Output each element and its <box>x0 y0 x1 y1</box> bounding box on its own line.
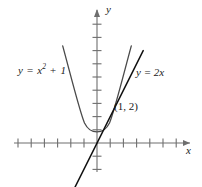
curve-equation-label: y = x2 + 1 <box>18 63 66 76</box>
curve-label-eq: = <box>23 64 37 76</box>
y-axis-arrow-icon <box>94 9 100 17</box>
tangency-point-label: (1, 2) <box>114 101 138 112</box>
line-equation-label: y = 2x <box>136 67 164 78</box>
curve-label-plus-one: + 1 <box>46 64 66 76</box>
graph-figure: y = x2 + 1 y = 2x (1, 2) y x <box>0 0 202 187</box>
x-axis-label: x <box>186 145 191 156</box>
coordinate-plot <box>0 0 202 187</box>
y-axis-label: y <box>106 4 111 15</box>
